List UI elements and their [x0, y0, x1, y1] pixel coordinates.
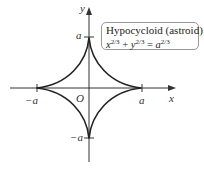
diagram-title: Hypocycloid (astroid) [106, 24, 194, 36]
x-axis-label: x [169, 93, 174, 104]
tick-label-x-pos: a [139, 95, 145, 106]
y-axis-label: y [80, 3, 85, 14]
equation-box: Hypocycloid (astroid) x2/3 + y2/3 = a2/3 [101, 22, 199, 50]
x-axis-arrow-icon [168, 85, 176, 91]
tick-label-y-pos: a [76, 30, 82, 41]
tick-label-x-neg: −a [25, 95, 38, 106]
tick-label-y-neg: −a [70, 132, 83, 143]
origin-label: O [76, 93, 84, 104]
y-axis-arrow-icon [86, 7, 92, 15]
equation: x2/3 + y2/3 = a2/3 [106, 36, 194, 51]
